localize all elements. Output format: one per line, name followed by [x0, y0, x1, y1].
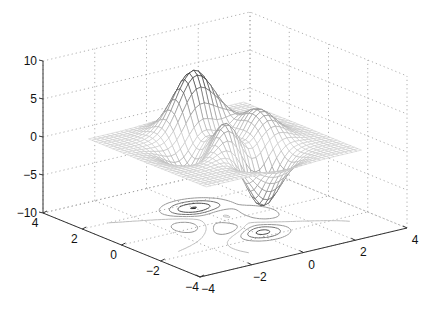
surface-mesh [89, 70, 362, 205]
y-tick-label: −2 [146, 264, 160, 278]
x-axis-ticks: −4 −2 0 2 4 [201, 233, 419, 296]
y-tick-label: 4 [32, 216, 39, 230]
z-tick-label: 0 [30, 130, 37, 144]
meshc-peaks-chart: −10 −5 0 5 10 −4 −2 0 2 4 −4 −2 0 2 4 [0, 0, 439, 313]
y-tick-label: −4 [185, 280, 199, 294]
x-tick-label: −2 [253, 270, 267, 284]
y-axis-ticks: −4 −2 0 2 4 [32, 216, 200, 294]
x-tick-label: 2 [360, 245, 367, 259]
z-tick-label: 5 [30, 92, 37, 106]
z-axis-ticks: −10 −5 0 5 10 [17, 54, 38, 220]
z-tick-label: 10 [24, 54, 38, 68]
x-tick-label: 4 [412, 233, 419, 247]
y-tick-label: 2 [71, 232, 78, 246]
x-tick-label: −4 [201, 282, 215, 296]
contour-plot [108, 198, 350, 253]
x-tick-label: 0 [308, 258, 315, 272]
z-tick-label: −5 [23, 168, 37, 182]
plot-area: −10 −5 0 5 10 −4 −2 0 2 4 −4 −2 0 2 4 [0, 0, 439, 313]
y-tick-label: 0 [110, 248, 117, 262]
